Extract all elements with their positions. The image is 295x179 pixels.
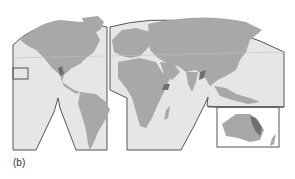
new-zealand xyxy=(270,134,276,146)
figure-caption: (b) xyxy=(13,157,25,168)
world-map xyxy=(0,0,295,179)
